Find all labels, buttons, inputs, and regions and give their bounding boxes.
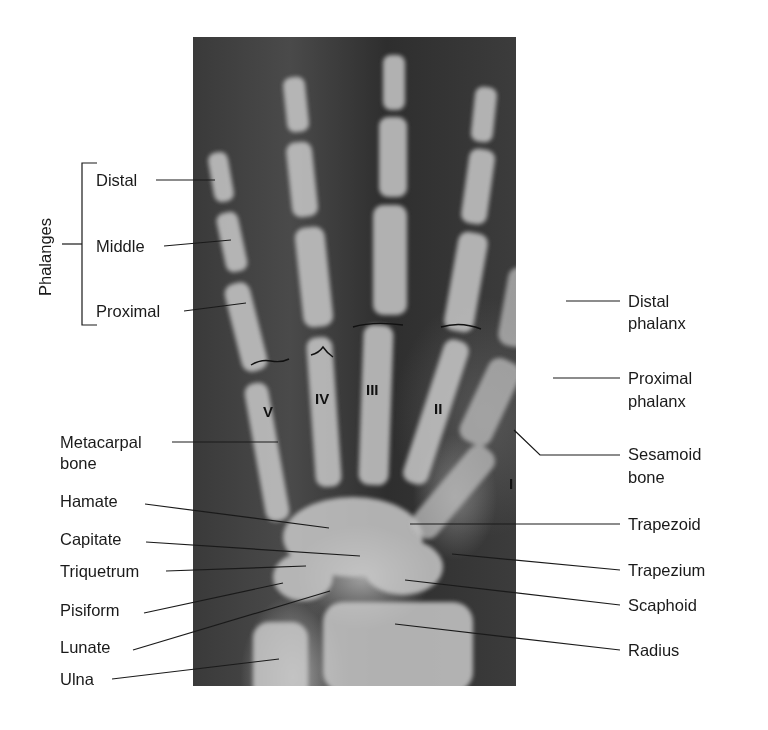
metacarpal-numeral-iv: IV [315, 390, 329, 407]
label-metacarpal-line1: Metacarpal [60, 432, 142, 453]
label-pisiform: Pisiform [60, 600, 120, 621]
phalanges-bracket [82, 163, 97, 325]
label-trapezoid: Trapezoid [628, 514, 701, 535]
hand-bones-illustration [193, 37, 516, 686]
metacarpal-numeral-ii: II [434, 400, 442, 417]
metacarpal-numeral-i: I [509, 475, 513, 492]
label-distal-phalanx-thumb-line1: Distal [628, 291, 669, 312]
xray-image [193, 37, 516, 686]
metacarpal-numeral-v: V [263, 403, 273, 420]
label-trapezium: Trapezium [628, 560, 705, 581]
phalanges-group-label: Phalanges [36, 218, 55, 296]
label-distal-phalanx-thumb-line2: phalanx [628, 313, 686, 334]
label-scaphoid: Scaphoid [628, 595, 697, 616]
metacarpal-numeral-iii: III [366, 381, 379, 398]
label-proximal-phalanx-left: Proximal [96, 301, 160, 322]
label-lunate: Lunate [60, 637, 110, 658]
label-radius: Radius [628, 640, 679, 661]
label-middle-phalanx: Middle [96, 236, 145, 257]
label-triquetrum: Triquetrum [60, 561, 139, 582]
label-proximal-phalanx-thumb-line2: phalanx [628, 391, 686, 412]
label-ulna: Ulna [60, 669, 94, 690]
label-metacarpal-line2: bone [60, 453, 97, 474]
label-sesamoid-line1: Sesamoid [628, 444, 701, 465]
label-sesamoid-line2: bone [628, 467, 665, 488]
label-capitate: Capitate [60, 529, 121, 550]
label-hamate: Hamate [60, 491, 118, 512]
label-distal-phalanx-left: Distal [96, 170, 137, 191]
label-proximal-phalanx-thumb-line1: Proximal [628, 368, 692, 389]
